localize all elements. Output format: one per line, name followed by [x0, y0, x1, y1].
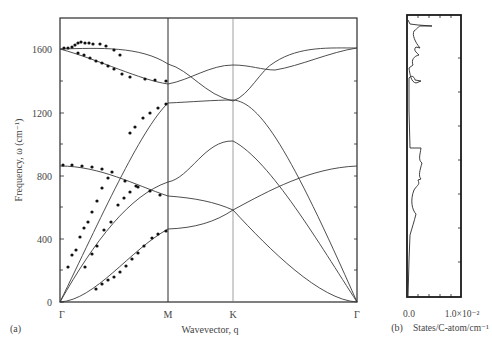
panel-a-label: (a) [10, 323, 21, 335]
xtick-gamma-left: Γ [59, 309, 65, 320]
figure: 0 400 800 1200 1600 Γ M K Γ Wavevector, … [0, 0, 492, 347]
branch-za [60, 210, 357, 302]
ytick-1600: 1600 [32, 44, 52, 55]
dispersion-curves [60, 48, 357, 302]
dos-curve [408, 20, 432, 297]
branch-lo [60, 48, 357, 84]
panel-b-label: (b) [391, 322, 403, 334]
x-axis-label: Wavevector, q [181, 324, 238, 335]
xtick-m: M [164, 309, 173, 320]
plot-frame-a [60, 18, 357, 302]
dos-xtick-0: 0.0 [403, 309, 415, 319]
plot-frame-b [407, 15, 461, 297]
branch-ta [60, 141, 357, 302]
panel-b: 0.0 1.0×10⁻² (b) States/C-atom/cm⁻¹ [391, 15, 489, 334]
panel-a: 0 400 800 1200 1600 Γ M K Γ Wavevector, … [10, 18, 360, 335]
y-axis-label: Frequency, ω (cm⁻¹) [13, 119, 25, 202]
ytick-1200: 1200 [32, 108, 52, 119]
dos-xtick-1e-2: 1.0×10⁻² [445, 309, 480, 319]
data-points [61, 40, 167, 290]
ytick-400: 400 [37, 234, 52, 245]
branch-to [60, 48, 357, 101]
ytick-0: 0 [47, 297, 52, 308]
branch-zo [60, 166, 357, 210]
dos-ticks [418, 15, 461, 297]
branch-la [60, 100, 357, 302]
xtick-k: K [229, 309, 237, 320]
dos-x-axis-label: States/C-atom/cm⁻¹ [413, 323, 489, 333]
ytick-800: 800 [37, 171, 52, 182]
y-ticks [60, 49, 357, 302]
xtick-gamma-right: Γ [354, 309, 360, 320]
